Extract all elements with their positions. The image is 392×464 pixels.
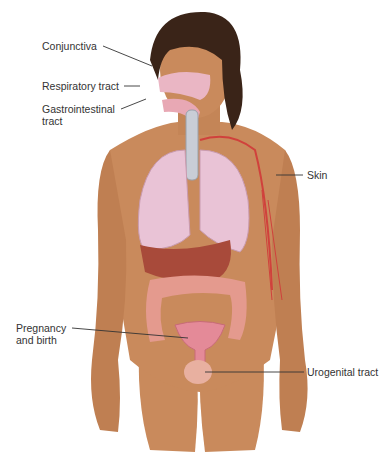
label-gastrointestinal-line2: tract <box>42 115 62 127</box>
body-diagram <box>0 0 392 464</box>
label-respiratory-tract: Respiratory tract <box>42 80 119 92</box>
label-gastrointestinal-line1: Gastrointestinal <box>42 103 115 115</box>
label-urogenital-tract: Urogenital tract <box>307 366 378 378</box>
label-pregnancy-line1: Pregnancy <box>16 322 66 334</box>
label-pregnancy-line2: and birth <box>16 334 57 346</box>
label-skin: Skin <box>307 169 327 181</box>
trachea <box>186 110 198 180</box>
label-conjunctiva: Conjunctiva <box>42 40 97 52</box>
